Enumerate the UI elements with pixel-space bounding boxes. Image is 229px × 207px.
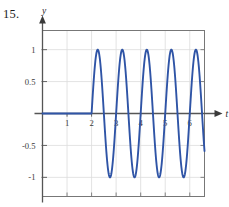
y-axis-label: y bbox=[41, 6, 47, 16]
axis-titles: y t bbox=[41, 6, 229, 120]
x-tick-label: 1 bbox=[65, 118, 69, 128]
bottom-edge-ticks bbox=[67, 193, 190, 197]
y-tick-label: 1 bbox=[31, 45, 35, 55]
x-axis-arrowhead bbox=[215, 110, 223, 117]
figure-container: 15. 123456 10.5-0.5-1 y t bbox=[0, 0, 229, 207]
y-tick-label: -1 bbox=[28, 172, 35, 182]
y-tick-labels: 10.5-0.5-1 bbox=[22, 45, 36, 183]
x-axis-label: t bbox=[226, 109, 229, 119]
y-axis-arrowhead bbox=[39, 16, 46, 24]
x-tick-label: 2 bbox=[89, 118, 93, 128]
y-tick-label: 0.5 bbox=[25, 77, 36, 87]
plot-area: 123456 10.5-0.5-1 y t bbox=[0, 0, 229, 207]
y-tick-label: -0.5 bbox=[22, 141, 36, 151]
